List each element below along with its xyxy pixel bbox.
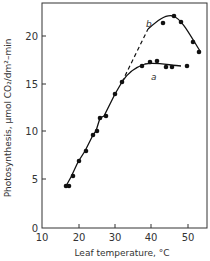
x-axis: 10 20 30 40 50 Leaf temperature, °C [36,224,195,258]
x-tick-label: 50 [182,232,195,243]
curve-b-label: b [146,19,152,29]
y-tick-label: 20 [25,31,38,42]
x-tick-label: 20 [73,232,86,243]
x-tick-label: 30 [109,232,122,243]
x-axis-title: Leaf temperature, °C [74,248,169,258]
y-tick-label: 0 [32,223,38,234]
curve-b-dashed [122,29,148,82]
plot-frame [42,3,207,228]
y-axis-title: Photosynthesis, µmol CO₂/dm²–min [3,39,13,198]
chart: 10 20 30 40 50 Leaf temperature, °C 0 5 … [0,0,210,261]
y-axis: 0 5 10 15 20 Photosynthesis, µmol CO₂/dm… [3,31,46,234]
curve-b [148,16,200,51]
data-points [64,14,202,189]
x-tick-label: 40 [145,232,158,243]
y-tick-label: 15 [25,79,38,90]
y-tick-label: 10 [25,126,38,137]
y-tick-label: 5 [32,174,38,185]
curve-a-label: a [151,72,157,82]
